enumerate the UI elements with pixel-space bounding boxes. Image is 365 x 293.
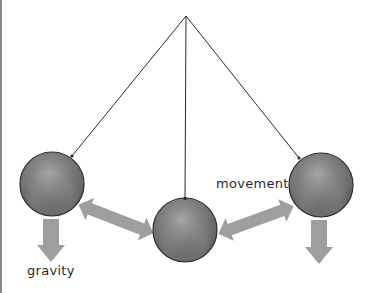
- string-right: [186, 16, 299, 158]
- ball-right: [289, 153, 353, 217]
- string-center: [185, 16, 186, 198]
- movement-arrow-right: [214, 195, 297, 245]
- ball-left: [20, 152, 84, 216]
- string-left: [72, 16, 186, 156]
- gravity-arrow-right: [305, 220, 333, 264]
- strings: [72, 16, 299, 198]
- pendulum-diagram: [0, 0, 365, 293]
- ball-center: [153, 197, 217, 262]
- gravity-arrow-left: [37, 219, 65, 262]
- gravity-label: gravity: [27, 264, 75, 277]
- movement-label: movement: [216, 177, 289, 190]
- movement-arrow-left: [74, 193, 157, 244]
